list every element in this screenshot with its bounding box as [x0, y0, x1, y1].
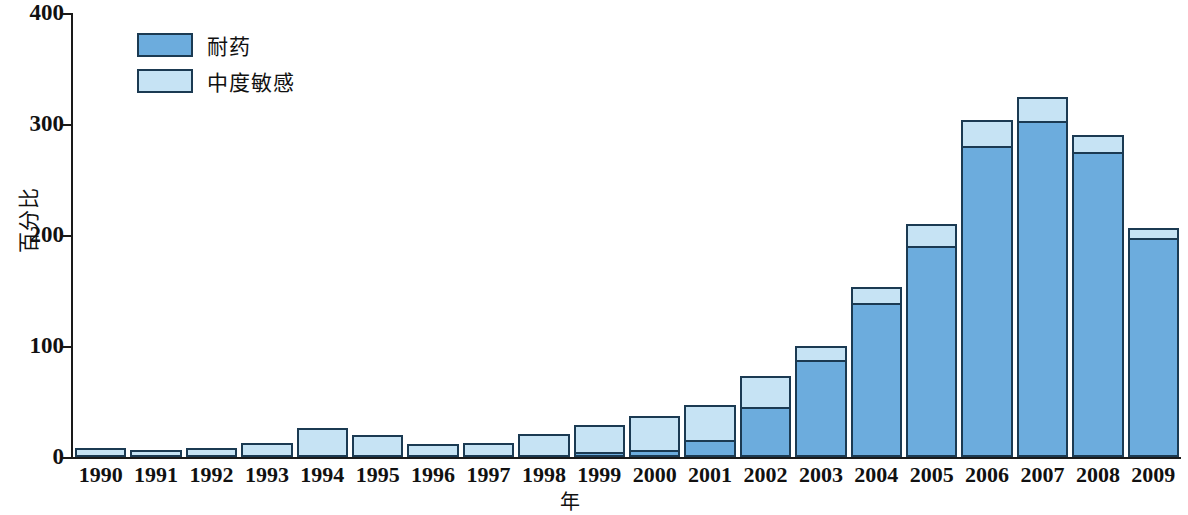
bar-segment-resistant[interactable] — [961, 146, 1012, 457]
legend-item[interactable]: 中度敏感 — [137, 66, 367, 96]
y-tick-mark — [62, 235, 72, 237]
bar-segment-resistant[interactable] — [851, 303, 902, 457]
bar-group[interactable] — [906, 13, 957, 457]
bar-segment-moderate-sensitive[interactable] — [1017, 97, 1068, 123]
x-axis-line — [71, 457, 1181, 459]
bar-segment-moderate-sensitive[interactable] — [629, 416, 680, 453]
bar-segment-resistant[interactable] — [574, 452, 625, 457]
y-tick-label: 400 — [10, 1, 64, 24]
y-tick-label: 100 — [10, 334, 64, 357]
y-tick-mark — [62, 13, 72, 15]
bar-segment-moderate-sensitive[interactable] — [684, 405, 735, 443]
bar-group[interactable] — [75, 13, 126, 457]
x-tick-label: 2006 — [959, 462, 1014, 488]
x-tick-label: 1994 — [295, 462, 350, 488]
x-tick-label: 1995 — [350, 462, 405, 488]
bar-segment-resistant[interactable] — [629, 450, 680, 457]
bar-group[interactable] — [629, 13, 680, 457]
x-tick-label: 2008 — [1070, 462, 1125, 488]
x-tick-label: 1997 — [461, 462, 516, 488]
x-tick-label: 1990 — [73, 462, 128, 488]
y-tick-label: 300 — [10, 112, 64, 135]
bar-stack — [463, 443, 514, 457]
x-tick-label: 1998 — [516, 462, 571, 488]
bar-segment-moderate-sensitive[interactable] — [75, 448, 126, 457]
bar-segment-moderate-sensitive[interactable] — [740, 376, 791, 409]
x-tick-label: 2009 — [1126, 462, 1181, 488]
x-axis-label: 年 — [560, 486, 580, 515]
bar-group[interactable] — [463, 13, 514, 457]
bar-group[interactable] — [1072, 13, 1123, 457]
bar-segment-moderate-sensitive[interactable] — [463, 443, 514, 457]
x-tick-label: 1999 — [572, 462, 627, 488]
x-tick-label: 2004 — [849, 462, 904, 488]
bar-segment-moderate-sensitive[interactable] — [961, 120, 1012, 148]
bar-stack — [740, 376, 791, 457]
bar-segment-moderate-sensitive[interactable] — [906, 224, 957, 248]
bar-stack — [574, 425, 625, 457]
bar-stack — [407, 444, 458, 457]
bar-stack — [851, 287, 902, 457]
x-tick-label: 2001 — [682, 462, 737, 488]
bar-segment-resistant[interactable] — [740, 407, 791, 457]
y-tick-mark — [62, 457, 72, 459]
bar-stack — [1017, 97, 1068, 457]
bar-stack — [297, 428, 348, 457]
x-tick-label: 1996 — [405, 462, 460, 488]
legend-item[interactable]: 耐药 — [137, 30, 367, 60]
y-axis-tick-labels: 0100200300400 — [0, 0, 64, 515]
bar-segment-moderate-sensitive[interactable] — [407, 444, 458, 457]
bar-segment-resistant[interactable] — [684, 440, 735, 457]
bar-group[interactable] — [740, 13, 791, 457]
legend-swatch-light — [137, 69, 193, 93]
bar-group[interactable] — [1128, 13, 1179, 457]
y-tick-mark — [62, 346, 72, 348]
bar-chart: 百分比 0100200300400 1990199119921993199419… — [0, 0, 1188, 515]
bar-segment-moderate-sensitive[interactable] — [130, 450, 181, 457]
bar-segment-moderate-sensitive[interactable] — [297, 428, 348, 457]
bar-group[interactable] — [684, 13, 735, 457]
bar-group[interactable] — [961, 13, 1012, 457]
bar-group[interactable] — [574, 13, 625, 457]
legend-swatch-dark — [137, 33, 193, 57]
y-tick-label: 200 — [10, 223, 64, 246]
x-tick-label: 1991 — [128, 462, 183, 488]
x-tick-label: 2003 — [793, 462, 848, 488]
bar-group[interactable] — [1017, 13, 1068, 457]
bar-segment-moderate-sensitive[interactable] — [518, 434, 569, 457]
bar-segment-resistant[interactable] — [906, 246, 957, 457]
bar-segment-moderate-sensitive[interactable] — [352, 435, 403, 457]
x-tick-label: 2007 — [1015, 462, 1070, 488]
bar-stack — [186, 448, 237, 457]
bar-group[interactable] — [407, 13, 458, 457]
bar-stack — [75, 448, 126, 457]
bar-segment-resistant[interactable] — [1128, 238, 1179, 457]
bar-stack — [629, 416, 680, 457]
bar-group[interactable] — [851, 13, 902, 457]
legend-label: 耐药 — [207, 30, 251, 60]
bar-segment-moderate-sensitive[interactable] — [241, 443, 292, 457]
bar-segment-resistant[interactable] — [1072, 152, 1123, 457]
bar-stack — [130, 450, 181, 457]
x-tick-label: 2000 — [627, 462, 682, 488]
x-tick-label: 1992 — [184, 462, 239, 488]
bar-stack — [1128, 228, 1179, 457]
bar-stack — [241, 443, 292, 457]
y-tick-mark — [62, 124, 72, 126]
bar-segment-resistant[interactable] — [1017, 121, 1068, 457]
bar-stack — [518, 434, 569, 457]
bar-stack — [352, 435, 403, 457]
bar-segment-moderate-sensitive[interactable] — [574, 425, 625, 454]
y-tick-label: 0 — [10, 445, 64, 468]
bar-segment-moderate-sensitive[interactable] — [186, 448, 237, 457]
bar-stack — [906, 224, 957, 457]
bar-segment-resistant[interactable] — [795, 360, 846, 457]
bar-stack — [961, 120, 1012, 457]
chart-legend: 耐药中度敏感 — [137, 30, 367, 102]
x-tick-label: 1993 — [239, 462, 294, 488]
bar-stack — [1072, 135, 1123, 457]
bar-group[interactable] — [795, 13, 846, 457]
x-tick-label: 2002 — [738, 462, 793, 488]
bar-group[interactable] — [518, 13, 569, 457]
legend-label: 中度敏感 — [207, 66, 295, 96]
